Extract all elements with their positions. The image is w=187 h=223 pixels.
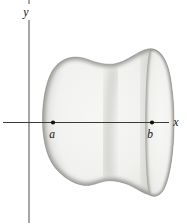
- x-axis-label: x: [172, 115, 179, 129]
- point-b-dot: [150, 120, 154, 124]
- point-a-dot: [51, 120, 55, 124]
- solid-of-revolution-figure: y x a b: [0, 0, 187, 223]
- point-a-label: a: [49, 128, 55, 140]
- point-b-label: b: [147, 128, 153, 140]
- figure-canvas: y x a b: [0, 0, 187, 223]
- y-axis-label: y: [22, 5, 29, 19]
